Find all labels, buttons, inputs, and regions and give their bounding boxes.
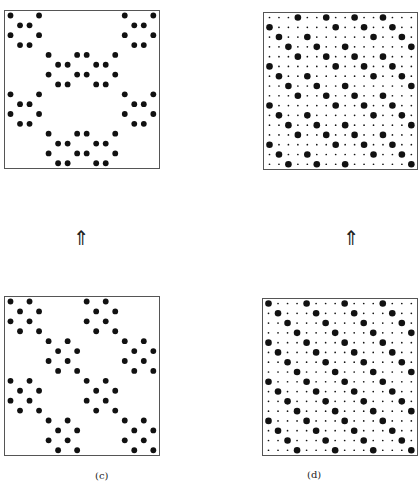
dot-matrix-c: [5, 297, 161, 457]
caption-c: (c): [95, 470, 108, 481]
matrix-panel-c: [4, 296, 160, 456]
matrix-panel-b: [263, 12, 418, 170]
dot-matrix-b: [264, 13, 418, 171]
matrix-panel-d: [262, 298, 418, 456]
matrix-panel-a: [4, 10, 160, 169]
caption-d: (d): [307, 469, 321, 480]
dot-matrix-d: [263, 299, 418, 457]
up-arrow-icon-left: ⇑: [73, 228, 90, 248]
dot-matrix-a: [5, 11, 161, 170]
up-arrow-icon-right: ⇑: [343, 228, 360, 248]
